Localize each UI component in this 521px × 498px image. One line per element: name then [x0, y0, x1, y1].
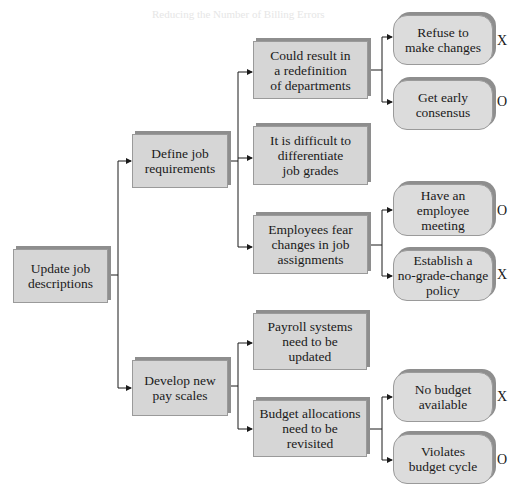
node-develop-new-pay-scales: Develop new pay scales [132, 360, 228, 416]
node-establish-no-grade-change-policy: Establish a no-grade-change policy [393, 250, 493, 301]
node-label: No budget available [415, 382, 472, 412]
node-employees-fear-changes: Employees fear changes in job assignment… [253, 215, 368, 274]
node-label: Payroll systems need to be updated [267, 319, 352, 364]
node-have-employee-meeting: Have an employee meeting [393, 184, 493, 236]
node-label: Refuse to make changes [405, 25, 481, 55]
node-payroll-systems: Payroll systems need to be updated [253, 313, 367, 370]
node-label: Employees fear changes in job assignment… [268, 222, 352, 267]
node-label: Violates budget cycle [409, 444, 478, 474]
outcome-mark: X [497, 33, 507, 49]
node-define-job-requirements: Define job requirements [132, 134, 228, 188]
node-violates-budget-cycle: Violates budget cycle [393, 434, 493, 484]
node-get-early-consensus: Get early consensus [393, 80, 493, 130]
node-update-job-descriptions: Update job descriptions [13, 249, 108, 303]
outcome-mark: O [497, 203, 507, 219]
node-label: Get early consensus [416, 90, 471, 120]
node-could-result-in-redefinition: Could result in a redefinition of depart… [253, 41, 368, 99]
node-label: Develop new pay scales [144, 373, 216, 403]
node-label: Establish a no-grade-change policy [398, 253, 489, 298]
node-no-budget-available: No budget available [393, 372, 493, 422]
node-label: Define job requirements [145, 146, 215, 176]
outcome-mark: X [497, 267, 507, 283]
node-budget-allocations: Budget allocations need to be revisited [253, 400, 367, 457]
node-label: Could result in a redefinition of depart… [270, 48, 351, 93]
node-refuse-to-make-changes: Refuse to make changes [393, 15, 493, 65]
node-label: It is difficult to differentiate job gra… [270, 133, 351, 178]
outcome-mark: X [497, 389, 507, 405]
node-label: Have an employee meeting [417, 188, 469, 233]
outcome-mark: O [497, 452, 507, 468]
node-difficult-to-differentiate: It is difficult to differentiate job gra… [253, 126, 368, 185]
node-label: Budget allocations need to be revisited [260, 406, 361, 451]
node-label: Update job descriptions [28, 261, 93, 291]
outcome-mark: O [497, 94, 507, 110]
